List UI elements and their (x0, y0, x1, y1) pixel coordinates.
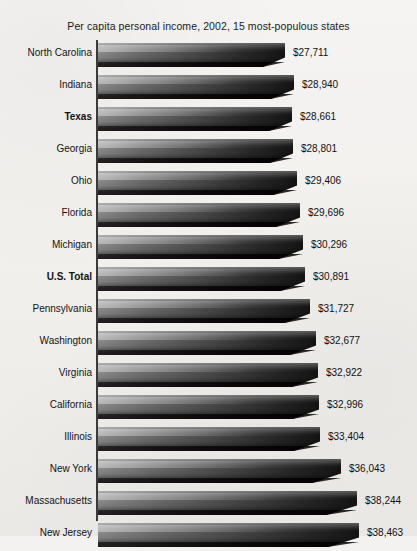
category-label: U.S. Total (47, 271, 92, 282)
bar (98, 427, 320, 451)
bar-body (98, 203, 300, 227)
bar-value-label: $28,801 (301, 143, 337, 154)
bar (98, 395, 319, 419)
bar-value-label: $32,996 (327, 399, 363, 410)
bar-body (98, 235, 303, 259)
category-label: Massachusetts (25, 495, 92, 506)
bar-value-label: $30,891 (313, 271, 349, 282)
bar-body (98, 331, 316, 355)
bar-body (98, 171, 297, 195)
category-label: New York (50, 463, 92, 474)
bar-row: California$32,996 (0, 392, 417, 424)
category-label: Florida (61, 207, 92, 218)
bar (98, 107, 292, 131)
bar (98, 491, 357, 515)
category-label: Texas (64, 111, 92, 122)
bar-value-label: $38,463 (367, 527, 403, 538)
category-label: Illinois (64, 431, 92, 442)
bar-row: Georgia$28,801 (0, 136, 417, 168)
bar-value-label: $32,677 (324, 335, 360, 346)
bar-body (98, 267, 305, 291)
category-label: New Jersey (40, 527, 92, 538)
bar (98, 75, 294, 99)
bar-body (98, 395, 319, 419)
bar-value-label: $36,043 (349, 463, 385, 474)
bar-row: Illinois$33,404 (0, 424, 417, 456)
bar-body (98, 491, 357, 515)
bar-body (98, 459, 341, 483)
bar-row: Indiana$28,940 (0, 72, 417, 104)
bar-row: Michigan$30,296 (0, 232, 417, 264)
bar (98, 203, 300, 227)
bar-row: New York$36,043 (0, 456, 417, 488)
bar-body (98, 363, 318, 387)
bar-row: Washington$32,677 (0, 328, 417, 360)
bar-row: Florida$29,696 (0, 200, 417, 232)
bar-body (98, 107, 292, 131)
bar (98, 139, 293, 163)
bar-value-label: $29,696 (308, 207, 344, 218)
bar-row: North Carolina$27,711 (0, 40, 417, 72)
category-label: Virginia (59, 367, 92, 378)
bar-body (98, 43, 285, 67)
bar-row: New Jersey$38,463 (0, 520, 417, 551)
category-label: Washington (40, 335, 92, 346)
bar-row: Pennsylvania$31,727 (0, 296, 417, 328)
bar (98, 363, 318, 387)
bar-body (98, 427, 320, 451)
bar (98, 43, 285, 67)
bar-value-label: $27,711 (293, 47, 328, 58)
bar-value-label: $31,727 (318, 303, 354, 314)
bar (98, 267, 305, 291)
category-label: Michigan (52, 239, 92, 250)
bar-value-label: $29,406 (305, 175, 341, 186)
bar-row: Virginia$32,922 (0, 360, 417, 392)
category-label: Pennsylvania (33, 303, 92, 314)
bar-row: Texas$28,661 (0, 104, 417, 136)
bar-body (98, 523, 359, 547)
bar-body (98, 75, 294, 99)
bar (98, 299, 310, 323)
bar (98, 235, 303, 259)
chart-title: Per capita personal income, 2002, 15 mos… (0, 20, 417, 32)
category-label: California (50, 399, 92, 410)
bar (98, 171, 297, 195)
category-label: Georgia (56, 143, 92, 154)
bar (98, 331, 316, 355)
bar-value-label: $33,404 (328, 431, 364, 442)
bar-row: Ohio$29,406 (0, 168, 417, 200)
category-label: Ohio (71, 175, 92, 186)
bar-value-label: $32,922 (326, 367, 362, 378)
bar-body (98, 139, 293, 163)
category-label: North Carolina (28, 47, 92, 58)
bar-row: U.S. Total$30,891 (0, 264, 417, 296)
bar-value-label: $38,244 (365, 495, 401, 506)
bar-body (98, 299, 310, 323)
bar-value-label: $28,661 (300, 111, 336, 122)
bar-value-label: $28,940 (302, 79, 338, 90)
bar (98, 523, 359, 547)
bar-value-label: $30,296 (311, 239, 347, 250)
plot-area: North Carolina$27,711Indiana$28,940Texas… (0, 40, 417, 530)
bar-row: Massachusetts$38,244 (0, 488, 417, 520)
bar (98, 459, 341, 483)
category-label: Indiana (59, 79, 92, 90)
